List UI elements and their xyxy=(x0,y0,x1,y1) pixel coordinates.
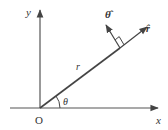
theta-hat-vector xyxy=(106,25,120,48)
right-angle-marker xyxy=(115,37,124,45)
y-axis-label: y xyxy=(25,6,31,18)
r-hat-label: r̂ xyxy=(146,23,151,34)
r-hat-vector xyxy=(120,27,147,48)
radius-line xyxy=(40,48,120,108)
radius-label: r xyxy=(76,61,80,72)
origin-label: O xyxy=(35,114,43,126)
polar-diagram: y x O r θ r̂ θ̂ xyxy=(0,0,168,130)
x-axis-label: x xyxy=(155,114,161,126)
angle-arc xyxy=(56,96,60,108)
angle-label: θ xyxy=(63,96,68,107)
theta-hat-label: θ̂ xyxy=(105,8,114,20)
